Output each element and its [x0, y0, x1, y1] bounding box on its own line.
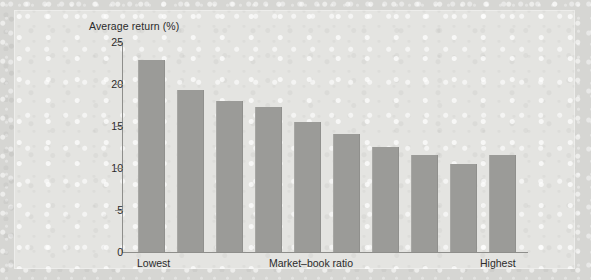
bar-10: [489, 155, 516, 252]
y-tick-0: 0: [84, 252, 123, 253]
bar-8: [411, 155, 438, 252]
bar-4: [255, 107, 282, 252]
bar-7: [372, 147, 399, 252]
y-tick-mark: [115, 210, 123, 211]
x-axis-label-lowest: Lowest: [137, 257, 170, 269]
y-tick-mark: [115, 42, 123, 43]
bar-1: [138, 60, 165, 252]
bar-6: [333, 134, 360, 252]
bar-chart-plot: Average return (%) 0510152025 Lowest Mar…: [0, 0, 591, 280]
bar-9: [450, 164, 477, 252]
y-tick-mark: [115, 84, 123, 85]
x-axis-label-center: Market–book ratio: [269, 257, 353, 269]
y-axis-line: [122, 42, 123, 253]
x-axis-label-highest: Highest: [480, 257, 516, 269]
bar-5: [294, 122, 321, 252]
y-axis-title: Average return (%): [89, 20, 179, 32]
chart-screenshot: Average return (%) 0510152025 Lowest Mar…: [0, 0, 591, 280]
y-tick-mark: [115, 168, 123, 169]
x-axis-line: [122, 252, 528, 253]
y-tick-mark: [115, 126, 123, 127]
bar-2: [177, 90, 204, 252]
bar-3: [216, 101, 243, 252]
y-tick-label: 0: [97, 247, 123, 257]
